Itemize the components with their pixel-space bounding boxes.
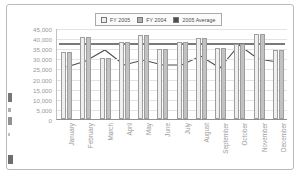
x-axis-tick-label: April	[126, 123, 133, 136]
bar-group	[134, 29, 153, 119]
x-axis-tick-label: September	[222, 123, 229, 154]
x-axis-tick-label: July	[184, 123, 191, 134]
bar-fy-2005	[61, 52, 66, 119]
bar-group	[57, 29, 76, 119]
bar-fy-2005	[177, 42, 182, 119]
plot-area	[56, 29, 287, 120]
bar-fy-2005	[138, 35, 143, 119]
y-axis-tick-label: 0	[49, 117, 52, 124]
legend-item-fy-2004: FY 2004	[137, 17, 166, 23]
bar-fy-2005	[254, 34, 259, 119]
x-axis-tick-label: January	[68, 123, 75, 145]
x-axis-tick-label: February	[87, 123, 94, 148]
bar-fy-2005	[196, 38, 201, 119]
bar-fy-2004	[86, 37, 91, 119]
bar-group	[230, 29, 249, 119]
x-axis-tick-label: November	[261, 123, 268, 152]
y-axis-tick-label: 25,000	[33, 66, 52, 73]
x-axis-tick-label: March	[107, 123, 114, 141]
y-axis-tick-label: 30,000	[33, 56, 52, 63]
y-axis: 45,00040,00035,00030,00025,00020,00015,0…	[21, 29, 54, 120]
bar-group	[115, 29, 134, 119]
bar-group	[76, 29, 95, 119]
y-axis-tick-label: 40,000	[33, 36, 52, 43]
bar-fy-2004	[144, 35, 149, 119]
bar-group	[96, 29, 115, 119]
bar-group	[153, 29, 172, 119]
legend-label-fy-2005: FY 2005	[110, 17, 130, 23]
legend-label-fy-2004: FY 2004	[146, 17, 166, 23]
bar-fy-2004	[67, 52, 72, 119]
bar-fy-2005	[157, 49, 162, 119]
bar-fy-2005	[100, 58, 105, 119]
bar-fy-2005	[119, 42, 124, 119]
legend-swatch-fy-2004	[137, 17, 143, 23]
bar-fy-2005	[234, 44, 239, 119]
x-axis-tick-label: June	[164, 123, 171, 137]
bar-fy-2005	[80, 37, 85, 119]
y-axis-tick-label: 10,000	[33, 96, 52, 103]
legend-swatch-2005-average	[173, 17, 179, 23]
bar-fy-2004	[183, 42, 188, 119]
chart-plot-wrapper: 45,00040,00035,00030,00025,00020,00015,0…	[21, 29, 289, 169]
edge-artifact	[8, 155, 13, 164]
y-axis-tick-label: 15,000	[33, 86, 52, 93]
y-axis-tick-label: 20,000	[33, 76, 52, 83]
bar-fy-2004	[125, 42, 130, 119]
x-axis-tick-label: December	[280, 123, 287, 152]
bar-group	[192, 29, 211, 119]
bar-fy-2004	[221, 48, 226, 119]
bar-fy-2004	[260, 34, 265, 119]
chart-frame: FY 2005 FY 2004 2005 Average 45,00040,00…	[6, 4, 294, 170]
bar-fy-2004	[240, 44, 245, 119]
edge-artifact	[8, 117, 12, 125]
legend-swatch-fy-2005	[101, 17, 107, 23]
legend-label-2005-average: 2005 Average	[182, 17, 215, 23]
bar-group	[211, 29, 230, 119]
bar-fy-2005	[215, 48, 220, 119]
y-axis-tick-label: 35,000	[33, 46, 52, 53]
bar-group	[250, 29, 269, 119]
x-axis-tick-label: August	[203, 123, 210, 143]
bar-group	[269, 29, 288, 119]
legend-item-fy-2005: FY 2005	[101, 17, 130, 23]
bar-fy-2005	[273, 50, 278, 119]
legend-item-2005-average: 2005 Average	[173, 17, 215, 23]
edge-artifact	[8, 133, 10, 136]
y-axis-tick-label: 5,000	[37, 106, 52, 113]
chart-legend: FY 2005 FY 2004 2005 Average	[95, 13, 222, 26]
bar-fy-2004	[202, 38, 207, 119]
x-axis-tick-label: May	[145, 123, 152, 135]
edge-artifact	[8, 108, 11, 112]
x-axis-tick-label: October	[241, 123, 248, 145]
edge-artifact	[8, 93, 12, 102]
x-axis: JanuaryFebruaryMarchAprilMayJuneJulyAugu…	[56, 121, 287, 167]
y-axis-tick-label: 45,000	[33, 26, 52, 33]
bar-fy-2004	[106, 58, 111, 119]
bar-fy-2004	[163, 49, 168, 119]
bar-fy-2004	[279, 50, 284, 119]
bar-group	[173, 29, 192, 119]
